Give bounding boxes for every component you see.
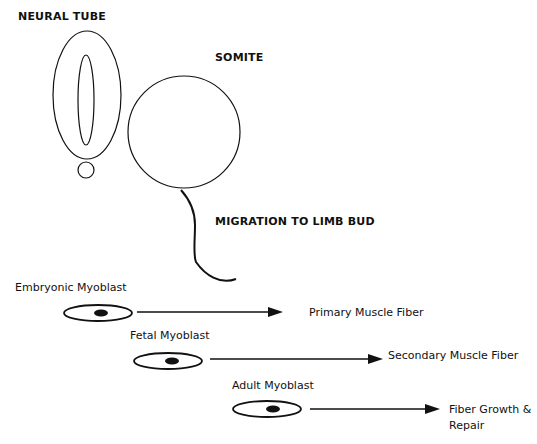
migration-path xyxy=(181,190,236,281)
myogenesis-diagram: NEURAL TUBE SOMITE MIGRATION TO LIMB BUD… xyxy=(0,0,537,444)
repair-label: Repair xyxy=(449,419,484,432)
migration-label: MIGRATION TO LIMB BUD xyxy=(215,215,375,228)
fetal-myoblast-cell xyxy=(134,353,202,369)
secondary-muscle-fiber-label: Secondary Muscle Fiber xyxy=(388,349,518,362)
somite-shape xyxy=(128,76,240,188)
embryonic-myoblast-cell xyxy=(64,305,132,321)
adult-myoblast-label: Adult Myoblast xyxy=(232,379,314,392)
adult-myoblast-cell xyxy=(233,401,301,417)
adult-arrow xyxy=(310,404,440,414)
neural-tube-shape xyxy=(53,31,121,178)
embryonic-myoblast-label: Embryonic Myoblast xyxy=(15,281,127,294)
somite-label: SOMITE xyxy=(215,51,264,64)
embryonic-arrow xyxy=(137,307,283,317)
fetal-arrow xyxy=(210,354,383,364)
fetal-myoblast-label: Fetal Myoblast xyxy=(130,329,210,342)
fiber-growth-label: Fiber Growth & xyxy=(449,403,531,416)
primary-muscle-fiber-label: Primary Muscle Fiber xyxy=(309,306,423,319)
neural-tube-label: NEURAL TUBE xyxy=(18,10,106,23)
